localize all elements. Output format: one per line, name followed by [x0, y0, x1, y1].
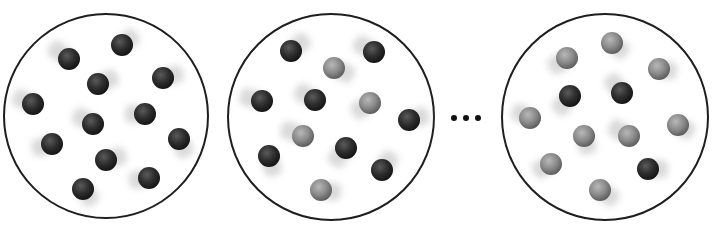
particle-dark [637, 158, 668, 180]
particle-dark [398, 106, 431, 131]
dark-ball [335, 137, 357, 159]
particle-dark [291, 81, 326, 111]
dark-ball [637, 158, 659, 180]
particle-dark [325, 137, 357, 170]
dark-ball [258, 145, 280, 167]
light-ball [589, 179, 611, 201]
dark-ball [58, 48, 80, 70]
dark-ball [251, 90, 273, 112]
dark-ball [72, 178, 94, 200]
particle-light [601, 32, 632, 62]
light-ball [292, 125, 314, 147]
dark-ball [82, 113, 104, 135]
dark-ball [559, 85, 581, 107]
particle-light [545, 47, 578, 77]
particle-dark [168, 128, 196, 160]
light-ball [648, 58, 670, 80]
particle-dark [69, 105, 104, 135]
container-1 [4, 14, 208, 218]
particle-diagram [0, 0, 721, 237]
particle-dark [350, 33, 385, 63]
dark-ball [304, 89, 326, 111]
light-ball [323, 57, 345, 79]
ellipsis-dot [451, 115, 457, 121]
light-ball [540, 153, 562, 175]
particle-light [530, 153, 562, 181]
light-ball [310, 179, 332, 201]
dark-ball [398, 109, 420, 131]
particle-light [667, 114, 698, 142]
particle-dark [72, 178, 102, 209]
particle-dark [128, 167, 160, 190]
light-ball [519, 107, 541, 129]
dark-ball [87, 73, 109, 95]
particle-light [648, 58, 678, 81]
dark-ball [168, 128, 190, 150]
dark-ball [280, 40, 302, 62]
particle-dark [125, 103, 156, 125]
light-ball [667, 114, 689, 136]
ellipsis-dot [475, 115, 481, 121]
dark-ball [41, 133, 63, 155]
particle-dark [152, 64, 185, 89]
particle-light [323, 57, 357, 85]
containers [4, 14, 708, 220]
light-ball [618, 125, 640, 147]
dark-ball [363, 41, 385, 63]
container-circle [4, 14, 208, 218]
dark-ball [95, 149, 117, 171]
dark-ball [134, 103, 156, 125]
dark-ball [611, 82, 633, 104]
particle-dark [601, 71, 633, 104]
particle-light [310, 179, 342, 202]
particle-dark [238, 87, 273, 112]
ellipsis-dots [451, 115, 481, 121]
light-ball [601, 32, 623, 54]
particle-dark [111, 26, 142, 56]
particle-dark [280, 30, 313, 62]
particle-dark [371, 148, 401, 181]
particle-light [605, 117, 640, 147]
ellipsis-dot [463, 115, 469, 121]
dark-ball [371, 159, 393, 181]
dark-ball [152, 67, 174, 89]
particle-dark [549, 85, 581, 118]
particle-dark [30, 133, 63, 158]
particle-dark [258, 145, 283, 178]
particle-light [589, 179, 622, 209]
container-3 [502, 14, 708, 220]
particle-dark [87, 67, 121, 95]
particle-light [348, 92, 381, 122]
container-2 [228, 14, 434, 220]
diagram-canvas [0, 0, 721, 237]
particle-dark [45, 38, 80, 70]
light-ball [359, 92, 381, 114]
dark-ball [138, 167, 160, 189]
particle-light [278, 119, 314, 147]
particle-dark [95, 146, 128, 171]
particle-dark [10, 87, 44, 115]
light-ball [573, 125, 595, 147]
dark-ball [111, 34, 133, 56]
particle-light [573, 125, 598, 157]
particle-light [509, 101, 541, 129]
dark-ball [22, 93, 44, 115]
light-ball [556, 47, 578, 69]
